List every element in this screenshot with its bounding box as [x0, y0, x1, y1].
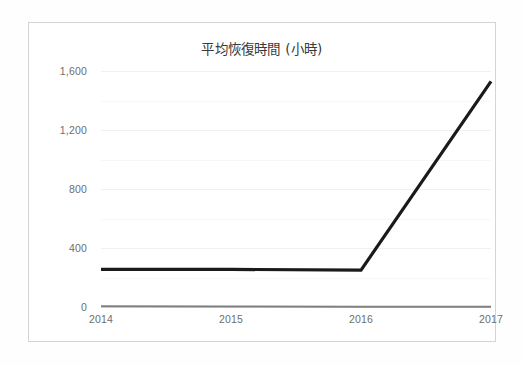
y-axis-tick-label: 400	[69, 242, 87, 254]
x-axis-tick-label: 2014	[89, 313, 113, 325]
x-axis-tick-labels: 2014201520162017	[101, 313, 491, 333]
x-axis-tick-label: 2015	[219, 313, 243, 325]
x-axis-tick-label: 2016	[349, 313, 373, 325]
x-axis-tick-label: 2017	[479, 313, 503, 325]
chart-frame: 平均恢復時間 (小時) 04008001,2001,600 2014201520…	[28, 22, 496, 342]
series-lines	[101, 71, 491, 307]
y-axis-tick-label: 1,600	[60, 65, 87, 77]
chart-title: 平均恢復時間 (小時)	[29, 38, 495, 58]
y-axis-tick-label: 1,200	[60, 124, 87, 136]
y-axis-tick-label: 0	[81, 301, 87, 313]
y-axis-tick-label: 800	[69, 183, 87, 195]
data-line-series-1	[101, 81, 491, 270]
chart-screenshot: 平均恢復時間 (小時) 04008001,2001,600 2014201520…	[0, 0, 524, 365]
plot-area	[101, 71, 491, 307]
y-axis-tick-labels: 04008001,2001,600	[29, 71, 95, 307]
